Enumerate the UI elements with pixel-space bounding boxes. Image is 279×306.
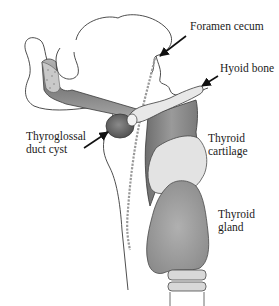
arrow-foramen-cecum (160, 36, 186, 56)
label-line: Foramen cecum (190, 20, 264, 33)
label-line: Thyroid (218, 208, 255, 221)
anatomy-figure: Foramen cecum Hyoid bone Thyroglossal du… (0, 0, 279, 306)
label-line: cartilage (208, 145, 248, 158)
thyroid-gland (147, 181, 209, 274)
thyroglossal-duct-cyst (106, 114, 137, 138)
label-line: Thyroglossal (26, 130, 86, 143)
label-thyroid-cartilage: Thyroid cartilage (208, 132, 248, 158)
label-foramen-cecum: Foramen cecum (190, 20, 264, 33)
label-thyroid-gland: Thyroid gland (218, 208, 255, 234)
trachea (168, 270, 206, 306)
label-line: duct cyst (26, 143, 86, 156)
label-line: Hyoid bone (220, 62, 274, 75)
arrow-hyoid-bone (202, 76, 218, 86)
label-line: gland (218, 221, 255, 234)
label-hyoid-bone: Hyoid bone (220, 62, 274, 75)
label-thyroglossal-duct-cyst: Thyroglossal duct cyst (26, 130, 86, 156)
label-line: Thyroid (208, 132, 248, 145)
